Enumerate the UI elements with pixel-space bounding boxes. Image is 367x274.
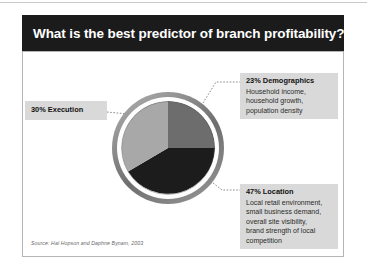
callout-execution-heading: 30% Execution: [31, 105, 101, 115]
slide: What is the best predictor of branch pro…: [0, 0, 367, 274]
callout-location-line: overall site visibility,: [246, 217, 332, 226]
callout-demographics-heading: 23% Demographics: [246, 76, 332, 86]
callout-location: 47% Location Local retail environment, s…: [240, 184, 338, 249]
source-note: Source: Hal Hopson and Daphne Bynam, 200…: [31, 240, 143, 246]
callout-location-line: Local retail environment,: [246, 198, 332, 207]
callout-execution: 30% Execution: [25, 101, 107, 120]
top-rule: [0, 2, 367, 3]
callout-demographics-line: population density: [246, 106, 332, 115]
callout-demographics: 23% Demographics Household income, house…: [240, 73, 338, 119]
page-title: What is the best predictor of branch pro…: [22, 26, 344, 41]
callout-location-line: small business demand,: [246, 207, 332, 216]
callout-demographics-line: Household income,: [246, 87, 332, 96]
pie-chart: [112, 92, 224, 204]
callout-location-body: Local retail environment, small business…: [246, 198, 332, 245]
pie-slices: [121, 101, 215, 195]
title-bar: What is the best predictor of branch pro…: [22, 15, 344, 52]
callout-demographics-body: Household income, household growth, popu…: [246, 87, 332, 115]
callout-demographics-line: household growth,: [246, 96, 332, 105]
callout-location-line: brand strength of local: [246, 226, 332, 235]
callout-location-line: competition: [246, 236, 332, 245]
callout-location-heading: 47% Location: [246, 187, 332, 197]
